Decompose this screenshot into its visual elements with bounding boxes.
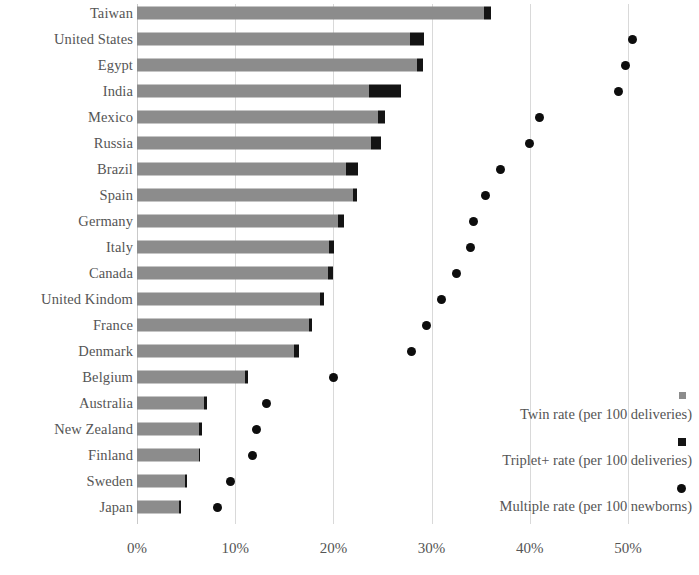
- stacked-bar: [137, 215, 344, 228]
- legend-item-twin-rate: Twin rate (per 100 deliveries): [440, 392, 692, 432]
- bar-segment-triplet-rate: [199, 423, 202, 436]
- bar-segment-triplet-rate: [417, 59, 423, 72]
- data-point-multiple-rate: [469, 217, 478, 226]
- category-label: Russia: [94, 136, 133, 151]
- bar-segment-twin-rate: [137, 137, 371, 150]
- bar-segment-twin-rate: [137, 475, 185, 488]
- bar-segment-triplet-rate: [204, 397, 207, 410]
- chart-row: Taiwan: [0, 0, 699, 26]
- category-label: Taiwan: [90, 6, 133, 21]
- data-point-multiple-rate: [481, 191, 490, 200]
- bar-segment-twin-rate: [137, 397, 204, 410]
- legend-square-gray-icon: [679, 392, 686, 399]
- legend-label-triplet-rate: Triplet+ rate (per 100 deliveries): [502, 452, 692, 469]
- stacked-bar: [137, 111, 385, 124]
- data-point-multiple-rate: [466, 243, 475, 252]
- data-point-multiple-rate: [226, 477, 235, 486]
- chart-row: France: [0, 312, 699, 338]
- data-point-multiple-rate: [262, 399, 271, 408]
- bar-segment-triplet-rate: [371, 137, 381, 150]
- legend-label-multiple-rate: Multiple rate (per 100 newborns): [500, 498, 692, 515]
- stacked-bar: [137, 423, 202, 436]
- bar-segment-twin-rate: [137, 241, 329, 254]
- category-label: Denmark: [78, 344, 133, 359]
- stacked-bar: [137, 475, 187, 488]
- multiple-birth-rate-chart: TaiwanUnited StatesEgyptIndiaMexicoRussi…: [0, 0, 699, 575]
- chart-row: Germany: [0, 208, 699, 234]
- category-label: Italy: [106, 240, 133, 255]
- bar-segment-triplet-rate: [294, 345, 299, 358]
- bar-segment-twin-rate: [137, 501, 179, 514]
- legend-circle-black-icon: [677, 484, 686, 493]
- category-label: Sweden: [86, 474, 133, 489]
- stacked-bar: [137, 293, 324, 306]
- category-label: Japan: [99, 500, 133, 515]
- stacked-bar: [137, 137, 381, 150]
- chart-row: United States: [0, 26, 699, 52]
- data-point-multiple-rate: [329, 373, 338, 382]
- bar-segment-triplet-rate: [378, 111, 386, 124]
- chart-row: Canada: [0, 260, 699, 286]
- bar-segment-twin-rate: [137, 59, 417, 72]
- data-point-multiple-rate: [248, 451, 257, 460]
- chart-row: Denmark: [0, 338, 699, 364]
- x-axis-tick-label: 50%: [614, 540, 642, 557]
- bar-segment-twin-rate: [137, 215, 338, 228]
- category-label: Mexico: [88, 110, 133, 125]
- data-point-multiple-rate: [496, 165, 505, 174]
- stacked-bar: [137, 501, 181, 514]
- legend-item-multiple-rate: Multiple rate (per 100 newborns): [440, 484, 692, 524]
- bar-segment-twin-rate: [137, 7, 484, 20]
- bar-segment-triplet-rate: [179, 501, 181, 514]
- category-label: United States: [54, 32, 133, 47]
- x-axis-tick-label: 30%: [418, 540, 446, 557]
- bar-segment-twin-rate: [137, 449, 199, 462]
- stacked-bar: [137, 85, 401, 98]
- chart-row: United Kindom: [0, 286, 699, 312]
- bar-segment-triplet-rate: [353, 189, 357, 202]
- bar-segment-twin-rate: [137, 267, 328, 280]
- bar-segment-twin-rate: [137, 111, 378, 124]
- data-point-multiple-rate: [621, 61, 630, 70]
- category-label: Belgium: [82, 370, 133, 385]
- stacked-bar: [137, 59, 423, 72]
- stacked-bar: [137, 33, 424, 46]
- chart-row: Brazil: [0, 156, 699, 182]
- data-point-multiple-rate: [452, 269, 461, 278]
- category-label: Egypt: [98, 58, 133, 73]
- bar-segment-triplet-rate: [338, 215, 344, 228]
- data-point-multiple-rate: [535, 113, 544, 122]
- bar-segment-triplet-rate: [320, 293, 324, 306]
- category-label: Germany: [78, 214, 133, 229]
- x-axis-tick-label: 0%: [127, 540, 147, 557]
- category-label: Canada: [89, 266, 133, 281]
- bar-segment-twin-rate: [137, 33, 410, 46]
- bar-segment-triplet-rate: [309, 319, 312, 332]
- stacked-bar: [137, 163, 358, 176]
- bar-segment-triplet-rate: [346, 163, 358, 176]
- bar-segment-triplet-rate: [410, 33, 424, 46]
- chart-row: Spain: [0, 182, 699, 208]
- bar-segment-triplet-rate: [484, 7, 491, 20]
- category-label: Brazil: [97, 162, 133, 177]
- legend-square-black-icon: [678, 438, 686, 446]
- bar-segment-triplet-rate: [185, 475, 187, 488]
- x-axis: 0%10%20%30%40%50%: [0, 528, 699, 568]
- stacked-bar: [137, 397, 207, 410]
- chart-legend: Twin rate (per 100 deliveries) Triplet+ …: [440, 392, 692, 522]
- bar-segment-twin-rate: [137, 345, 294, 358]
- stacked-bar: [137, 241, 334, 254]
- category-label: France: [93, 318, 133, 333]
- data-point-multiple-rate: [213, 503, 222, 512]
- bar-segment-twin-rate: [137, 85, 369, 98]
- data-point-multiple-rate: [628, 35, 637, 44]
- stacked-bar: [137, 449, 200, 462]
- data-point-multiple-rate: [422, 321, 431, 330]
- bar-segment-twin-rate: [137, 163, 346, 176]
- bar-segment-triplet-rate: [245, 371, 248, 384]
- data-point-multiple-rate: [525, 139, 534, 148]
- chart-row: Mexico: [0, 104, 699, 130]
- data-point-multiple-rate: [614, 87, 623, 96]
- legend-item-triplet-rate: Triplet+ rate (per 100 deliveries): [440, 438, 692, 478]
- bar-segment-twin-rate: [137, 293, 320, 306]
